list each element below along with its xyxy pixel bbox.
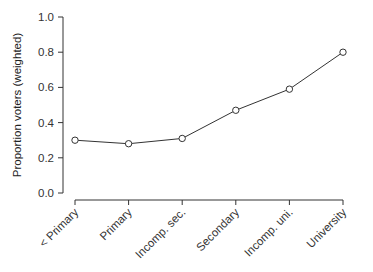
x-tick-label: University: [304, 206, 348, 250]
y-tick-label: 1.0: [38, 11, 54, 23]
line-chart: 0.00.20.40.60.81.0 < PrimaryPrimaryIncom…: [0, 0, 373, 272]
data-point: [179, 135, 185, 141]
data-point: [233, 107, 239, 113]
y-tick-label: 0.0: [38, 187, 54, 199]
data-point: [125, 141, 131, 147]
x-tick-label: Primary: [98, 206, 135, 243]
data-point: [286, 86, 292, 92]
x-tick-label: Incomp. uni.: [242, 206, 295, 259]
y-tick-label: 0.4: [38, 117, 55, 129]
x-tick-label: Incomp. sec.: [133, 206, 188, 261]
series-line: [75, 52, 343, 144]
x-tick-label: < Primary: [37, 206, 81, 250]
y-tick-label: 0.2: [38, 152, 54, 164]
data-series: [72, 49, 346, 147]
y-tick-label: 0.6: [38, 81, 54, 93]
y-tick-label: 0.8: [38, 46, 54, 58]
y-axis: 0.00.20.40.60.81.0: [38, 11, 63, 199]
data-point: [340, 49, 346, 55]
x-axis: < PrimaryPrimaryIncomp. sec.SecondaryInc…: [37, 200, 349, 261]
y-axis-title: Proportion voters (weighted): [11, 33, 23, 178]
x-tick-label: Secondary: [194, 206, 242, 254]
data-point: [72, 137, 78, 143]
